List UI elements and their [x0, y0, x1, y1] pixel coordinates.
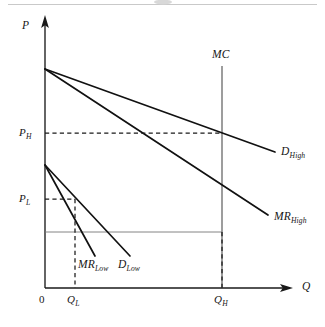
- demand-high-symbol: D: [281, 145, 289, 157]
- demand-low-symbol: D: [118, 258, 126, 270]
- diagram-canvas: [0, 0, 325, 327]
- mc-curve-label: MC: [212, 49, 229, 61]
- price-discrimination-figure: P Q 0 PH PL QL QH MC DHigh MRHigh MRLow …: [0, 0, 325, 327]
- demand-high-subscript: High: [290, 151, 306, 160]
- price-high-tick-symbol: P: [19, 126, 26, 138]
- x-axis-label: Q: [302, 281, 310, 293]
- marginal-revenue-high-curve-label: MRHigh: [274, 211, 306, 223]
- price-high-tick-label: PH: [19, 127, 31, 138]
- quantity-high-tick-label: QH: [214, 294, 228, 305]
- price-high-tick-subscript: H: [26, 132, 32, 141]
- quantity-low-tick-label: QL: [67, 294, 79, 305]
- quantity-low-tick-symbol: Q: [67, 293, 75, 305]
- marginal-revenue-high-symbol: MR: [274, 210, 291, 222]
- y-axis-label: P: [22, 20, 29, 32]
- marginal-revenue-low-subscript: Low: [95, 264, 108, 273]
- quantity-high-tick-subscript: H: [222, 299, 228, 308]
- origin-label: 0: [39, 294, 45, 305]
- mc-curve-symbol: MC: [212, 48, 229, 60]
- marginal-revenue-high-curve: [45, 69, 268, 215]
- demand-low-subscript: Low: [127, 264, 140, 273]
- marginal-revenue-low-symbol: MR: [78, 258, 95, 270]
- quantity-low-tick-subscript: L: [75, 299, 79, 308]
- price-low-tick-label: PL: [19, 193, 30, 204]
- demand-high-curve-label: DHigh: [281, 146, 305, 158]
- price-low-tick-subscript: L: [26, 198, 30, 207]
- marginal-revenue-low-curve-label: MRLow: [78, 259, 108, 271]
- page-smudge: [154, 0, 172, 4]
- marginal-revenue-high-subscript: High: [291, 216, 307, 225]
- price-low-tick-symbol: P: [19, 192, 26, 204]
- demand-low-curve-label: DLow: [118, 259, 140, 271]
- quantity-high-tick-symbol: Q: [214, 293, 222, 305]
- demand-high-curve: [45, 69, 275, 152]
